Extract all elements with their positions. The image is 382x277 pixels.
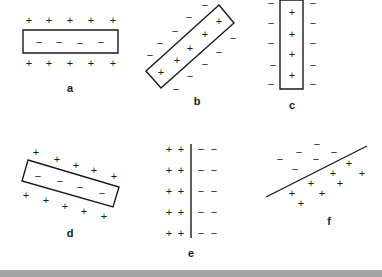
panel-e: ++++++++++−−−−−−−−−−e xyxy=(166,143,217,259)
plus-charge-icon: + xyxy=(202,28,208,40)
minus-charge-icon: − xyxy=(98,36,104,48)
minus-charge-icon: − xyxy=(216,46,222,58)
minus-charge-icon: − xyxy=(331,146,337,158)
minus-charge-icon: − xyxy=(99,187,105,199)
plus-charge-icon: + xyxy=(166,164,172,176)
minus-charge-icon: − xyxy=(211,185,217,197)
plus-charge-icon: + xyxy=(298,197,304,209)
plus-charge-icon: + xyxy=(289,6,295,18)
plus-charge-icon: + xyxy=(174,54,180,66)
plus-charge-icon: + xyxy=(67,57,73,69)
plus-charge-icon: + xyxy=(67,14,73,26)
plus-charge-icon: + xyxy=(337,177,343,189)
plus-charge-icon: + xyxy=(187,42,193,54)
plus-charge-icon: + xyxy=(289,48,295,60)
plus-charge-icon: + xyxy=(289,28,295,40)
plus-charge-icon: + xyxy=(330,167,336,179)
minus-charge-icon: − xyxy=(172,25,178,37)
plus-charge-icon: + xyxy=(26,57,32,69)
charge-distribution-diagram: ++++++++++−−−−a +++++−−−−−−−−−−b ++++−−−… xyxy=(0,0,382,277)
minus-charge-icon: − xyxy=(77,37,83,49)
minus-charge-icon: − xyxy=(270,59,276,71)
plus-charge-icon: + xyxy=(166,143,172,155)
plus-charge-icon: + xyxy=(166,206,172,218)
minus-charge-icon: − xyxy=(202,58,208,70)
plus-charge-icon: + xyxy=(81,205,87,217)
minus-charge-icon: − xyxy=(310,0,316,9)
plus-charge-icon: + xyxy=(158,66,164,78)
panel-label: e xyxy=(188,247,194,259)
plus-charge-icon: + xyxy=(54,153,60,165)
panel-label: d xyxy=(67,227,74,239)
plus-charge-icon: + xyxy=(101,210,107,222)
minus-charge-icon: − xyxy=(36,36,42,48)
minus-charge-icon: − xyxy=(157,37,163,49)
minus-charge-icon: − xyxy=(198,143,204,155)
minus-charge-icon: − xyxy=(268,37,274,49)
plus-charge-icon: + xyxy=(46,14,52,26)
plus-charge-icon: + xyxy=(33,146,39,158)
plus-charge-icon: + xyxy=(178,185,184,197)
minus-charge-icon: − xyxy=(173,83,179,95)
plus-charge-icon: + xyxy=(73,159,79,171)
panel-c: ++++−−−−−−−−−−c xyxy=(268,0,316,111)
minus-charge-icon: − xyxy=(198,227,204,239)
plus-charge-icon: + xyxy=(319,187,325,199)
plus-charge-icon: + xyxy=(178,206,184,218)
minus-charge-icon: − xyxy=(211,227,217,239)
minus-charge-icon: − xyxy=(198,164,204,176)
minus-charge-icon: − xyxy=(77,181,83,193)
minus-charge-icon: − xyxy=(202,0,208,11)
plus-charge-icon: + xyxy=(359,167,365,179)
plus-charge-icon: + xyxy=(178,143,184,155)
minus-charge-icon: − xyxy=(211,143,217,155)
minus-charge-icon: − xyxy=(187,70,193,82)
plus-charge-icon: + xyxy=(91,164,97,176)
panel-b: +++++−−−−−−−−−−b xyxy=(146,0,236,107)
plus-charge-icon: + xyxy=(62,200,68,212)
panel-label: b xyxy=(194,95,201,107)
plus-charge-icon: + xyxy=(111,170,117,182)
minus-charge-icon: − xyxy=(198,185,204,197)
plus-charge-icon: + xyxy=(178,164,184,176)
minus-charge-icon: − xyxy=(292,163,298,175)
minus-charge-icon: − xyxy=(296,146,302,158)
minus-charge-icon: − xyxy=(57,175,63,187)
minus-charge-icon: − xyxy=(268,78,274,90)
minus-charge-icon: − xyxy=(310,59,316,71)
plus-charge-icon: + xyxy=(88,14,94,26)
minus-charge-icon: − xyxy=(310,37,316,49)
plus-charge-icon: + xyxy=(23,189,29,201)
bottom-bar xyxy=(0,270,382,277)
minus-charge-icon: − xyxy=(268,17,274,29)
plus-charge-icon: + xyxy=(46,57,52,69)
plus-charge-icon: + xyxy=(289,69,295,81)
plus-charge-icon: + xyxy=(43,194,49,206)
panel-d: ++++++++++−−−−d xyxy=(22,146,119,239)
plus-charge-icon: + xyxy=(346,157,352,169)
minus-charge-icon: − xyxy=(230,32,236,44)
minus-charge-icon: − xyxy=(310,17,316,29)
plus-charge-icon: + xyxy=(166,227,172,239)
minus-charge-icon: − xyxy=(310,78,316,90)
panel-label: f xyxy=(327,215,331,227)
minus-charge-icon: − xyxy=(56,36,62,48)
plus-charge-icon: + xyxy=(26,14,32,26)
minus-charge-icon: − xyxy=(268,0,274,9)
plus-charge-icon: + xyxy=(166,185,172,197)
panel-f: ++++++++−−−−−−f xyxy=(266,138,367,227)
minus-charge-icon: − xyxy=(35,170,41,182)
minus-charge-icon: − xyxy=(186,11,192,23)
minus-charge-icon: − xyxy=(211,164,217,176)
plus-charge-icon: + xyxy=(110,57,116,69)
plus-charge-icon: + xyxy=(308,177,314,189)
minus-charge-icon: − xyxy=(277,153,283,165)
panel-label: c xyxy=(289,99,295,111)
plus-charge-icon: + xyxy=(88,57,94,69)
conductor-plate xyxy=(22,160,119,207)
panel-a: ++++++++++−−−−a xyxy=(23,14,118,94)
minus-charge-icon: − xyxy=(198,206,204,218)
plus-charge-icon: + xyxy=(289,187,295,199)
plus-charge-icon: + xyxy=(216,15,222,27)
minus-charge-icon: − xyxy=(211,206,217,218)
